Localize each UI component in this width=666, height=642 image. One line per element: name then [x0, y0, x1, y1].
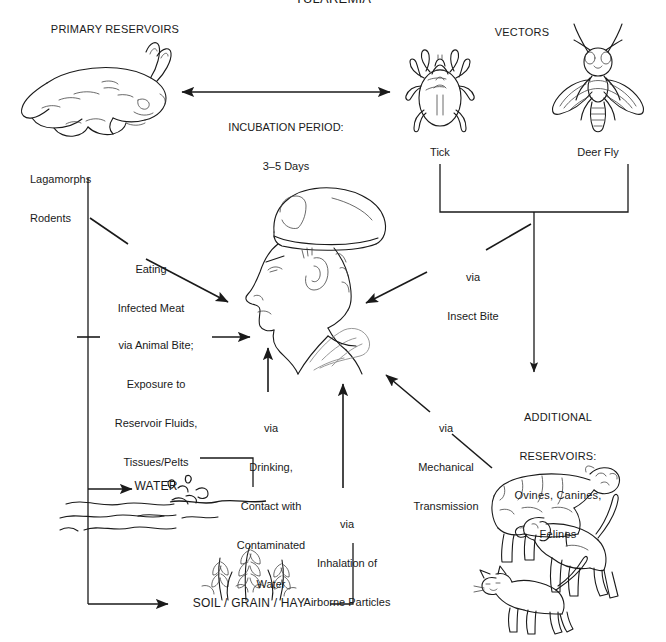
eating-meat-arrow: [146, 259, 228, 302]
mechanical-transmission-arrow: [386, 375, 430, 412]
mechanical-transmission-leader: [452, 434, 492, 468]
soil-to-inhalation-connector: [330, 543, 353, 604]
water-to-drinking-connector: [200, 458, 253, 487]
insect-bite-leader: [486, 224, 531, 250]
connector-overlay: [0, 0, 666, 642]
tularemia-transmission-diagram: TULAREMIA PRIMARY RESERVOIRS VECTORS: [0, 0, 666, 642]
vectors-bracket: [440, 164, 628, 212]
eating-meat-leader: [90, 218, 128, 244]
insect-bite-arrow: [366, 272, 427, 303]
